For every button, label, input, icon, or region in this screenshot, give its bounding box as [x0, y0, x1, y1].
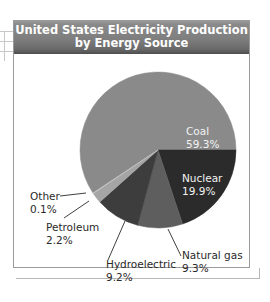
label-petroleum-name: Petroleum — [46, 221, 99, 234]
label-other-name: Other — [30, 190, 60, 203]
label-natural-gas-name: Natural gas — [182, 249, 243, 262]
leader-line-natural-gas — [168, 229, 181, 256]
label-coal-pct: 59.3% — [186, 138, 219, 151]
label-natural-gas-pct: 9.3% — [182, 262, 243, 275]
label-hydroelectric: Hydroelectric 9.2% — [106, 258, 176, 284]
label-petroleum: Petroleum 2.2% — [46, 221, 99, 247]
label-nuclear: Nuclear 19.9% — [182, 172, 222, 198]
label-nuclear-name: Nuclear — [182, 172, 222, 185]
leader-line-petroleum — [64, 201, 89, 218]
label-natural-gas: Natural gas 9.3% — [182, 249, 243, 275]
label-nuclear-pct: 19.9% — [182, 185, 222, 198]
label-coal: Coal 59.3% — [186, 125, 219, 151]
label-other-pct: 0.1% — [30, 203, 60, 216]
label-coal-name: Coal — [186, 125, 219, 138]
label-hydroelectric-pct: 9.2% — [106, 271, 176, 284]
leader-line-other — [60, 193, 86, 196]
label-petroleum-pct: 2.2% — [46, 234, 99, 247]
label-hydroelectric-name: Hydroelectric — [106, 258, 176, 271]
label-other: Other 0.1% — [30, 190, 60, 216]
leader-line-hydroelectric — [108, 221, 125, 260]
